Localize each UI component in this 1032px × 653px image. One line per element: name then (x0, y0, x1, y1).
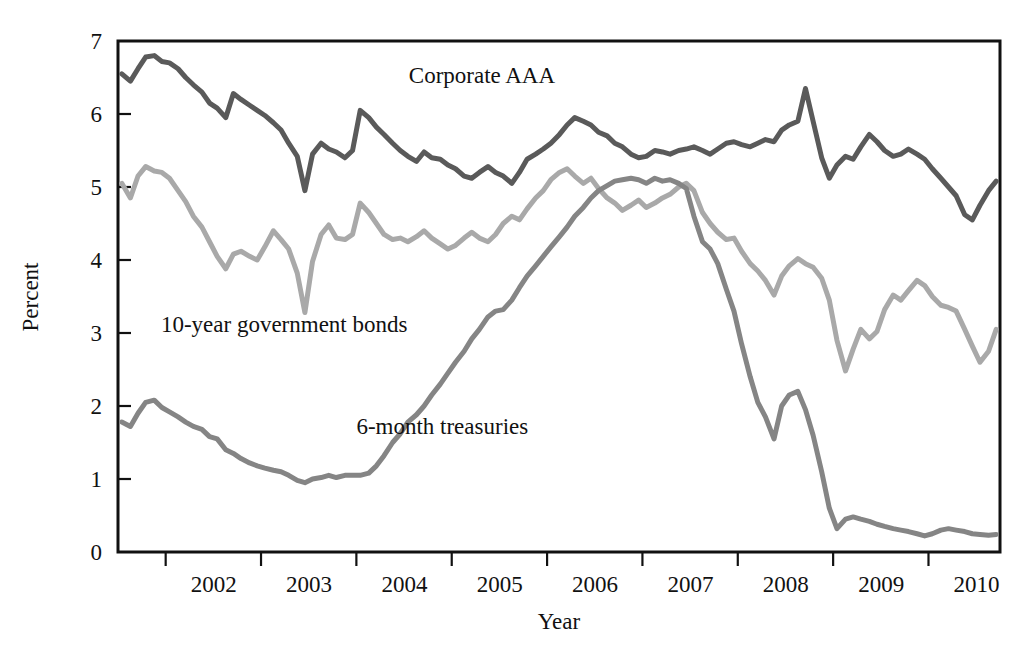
interest-rates-line-chart: 200220032004200520062007200820092010 012… (0, 0, 1032, 653)
x-tick-label-2005: 2005 (477, 572, 523, 597)
x-tick-label-2007: 2007 (667, 572, 713, 597)
x-tick-label-2003: 2003 (286, 572, 332, 597)
series-lines (122, 56, 996, 536)
y-axis-title: Percent (18, 262, 43, 332)
x-axis-title: Year (538, 609, 581, 634)
x-axis-ticks (166, 552, 929, 566)
x-tick-label-2002: 2002 (191, 572, 237, 597)
x-tick-label-2010: 2010 (953, 572, 999, 597)
plot-frame (118, 41, 1000, 552)
y-tick-label-5: 5 (91, 175, 103, 200)
series-line-6-month-treasuries (122, 178, 996, 536)
y-tick-label-6: 6 (91, 102, 103, 127)
y-tick-label-7: 7 (91, 29, 103, 54)
x-tick-label-2008: 2008 (763, 572, 809, 597)
y-tick-label-2: 2 (91, 394, 103, 419)
x-tick-label-2004: 2004 (381, 572, 428, 597)
annotation-corporate-aaa: Corporate AAA (409, 63, 556, 88)
x-tick-label-2009: 2009 (858, 572, 904, 597)
series-line-corporate-aaa (122, 56, 996, 220)
y-tick-labels: 01234567 (91, 29, 103, 565)
y-tick-label-1: 1 (91, 467, 103, 492)
y-tick-label-0: 0 (91, 540, 103, 565)
x-tick-labels: 200220032004200520062007200820092010 (191, 572, 1000, 597)
annotation-6-month-treasuries: 6-month treasuries (356, 414, 528, 439)
y-tick-label-4: 4 (91, 248, 103, 273)
annotation-10-year-government-bonds: 10-year government bonds (161, 312, 408, 337)
x-tick-label-2006: 2006 (572, 572, 618, 597)
chart-container: 200220032004200520062007200820092010 012… (0, 0, 1032, 653)
series-line-10-year-government-bonds (122, 167, 996, 371)
y-tick-label-3: 3 (91, 321, 103, 346)
